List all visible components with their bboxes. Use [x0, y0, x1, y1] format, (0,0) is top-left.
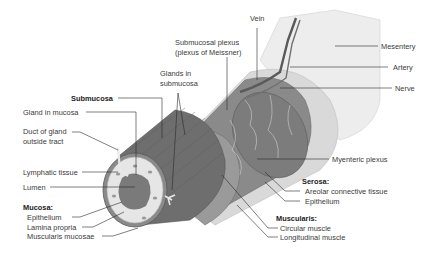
label-vein: Vein — [250, 14, 264, 23]
label-mesentery: Mesentery — [381, 42, 416, 51]
label-lamina-propria: Lamina propria — [27, 223, 76, 232]
leader-duct — [72, 132, 118, 150]
label-submucosal-plexus: Submucosal plexus — [175, 38, 239, 47]
label-mucosa-heading: Mucosa: — [23, 203, 53, 212]
label-gland-in-mucosa: Gland in mucosa — [23, 108, 78, 117]
label-epithelium: Epithelium — [27, 213, 62, 222]
label-glands-submucosa-sub: submucosa — [160, 79, 198, 88]
label-nerve: Nerve — [395, 84, 415, 93]
label-duct-outside: outside tract — [23, 137, 63, 146]
label-glands-submucosa: Glands in — [160, 69, 191, 78]
label-submucosa: Submucosa — [71, 94, 113, 103]
label-serosa-epithelium: Epithelium — [305, 197, 340, 206]
label-submucosal-plexus-sub: (plexus of Meissner) — [175, 48, 242, 57]
lumen-shape — [119, 173, 151, 209]
leader-muscularis-mucosae — [102, 228, 138, 236]
label-artery: Artery — [393, 63, 413, 72]
label-longitudinal-muscle: Longitudinal muscle — [280, 233, 345, 242]
label-lymphatic-tissue: Lymphatic tissue — [23, 168, 78, 177]
label-lumen: Lumen — [23, 183, 46, 192]
label-serosa-heading: Serosa: — [302, 177, 329, 186]
label-duct-of-gland: Duct of gland — [23, 127, 67, 136]
label-muscularis-mucosae: Muscularis mucosae — [27, 232, 94, 241]
label-circular-muscle: Circular muscle — [280, 224, 331, 233]
label-myenteric-plexus: Myenteric plexus — [332, 155, 387, 164]
label-muscularis-heading: Muscularis: — [276, 214, 317, 223]
label-areolar-tissue: Areolar connective tissue — [305, 187, 388, 196]
